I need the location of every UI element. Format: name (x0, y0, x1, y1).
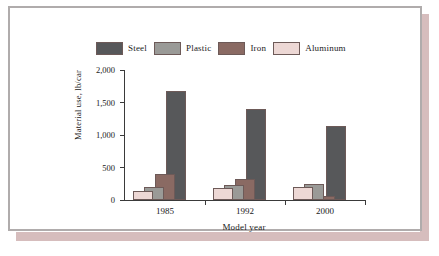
y-axis-tick-500: 500 (102, 163, 125, 173)
bar-1992-aluminum (213, 188, 233, 200)
figure-root: SteelPlasticIronAluminum Material use, l… (0, 0, 439, 256)
legend-swatch-iron (218, 42, 245, 55)
y-axis-tick-label: 500 (102, 163, 115, 173)
x-axis-label-1992: 1992 (215, 206, 275, 216)
x-axis-tick (285, 200, 286, 205)
bar-1985-aluminum (133, 191, 153, 200)
legend-label-steel: Steel (128, 43, 147, 53)
x-axis-tick (205, 200, 206, 205)
legend-swatch-steel (96, 42, 123, 55)
x-axis-label-2000: 2000 (295, 206, 355, 216)
bar-group-1992: 1992 (205, 70, 285, 200)
legend-entry-aluminum: Aluminum (273, 42, 346, 55)
legend-entry-steel: Steel (96, 42, 147, 55)
y-axis-tick-2000: 2,000 (96, 65, 125, 75)
figure-frame: SteelPlasticIronAluminum Material use, l… (8, 6, 422, 231)
legend-label-aluminum: Aluminum (305, 43, 346, 53)
legend-entry-plastic: Plastic (154, 42, 211, 55)
bar-2000-aluminum (293, 187, 313, 200)
bar-group-2000: 2000 (285, 70, 365, 200)
y-axis-tick-label: 0 (111, 195, 115, 205)
legend-label-plastic: Plastic (186, 43, 211, 53)
x-axis-label-1985: 1985 (135, 206, 195, 216)
legend-swatch-plastic (154, 42, 181, 55)
y-axis-tick-label: 1,000 (96, 130, 115, 140)
plot-area: 05001,0001,5002,000198519922000 (124, 70, 365, 201)
frame-shadow-bottom (16, 232, 429, 241)
y-axis-title: Material use, lb/car (73, 47, 83, 163)
legend-swatch-aluminum (273, 42, 300, 55)
y-axis-tick-1500: 1,500 (96, 98, 125, 108)
bar-group-1985: 1985 (125, 70, 205, 200)
y-axis-tick-0: 0 (111, 195, 125, 205)
y-axis-tick-label: 2,000 (96, 65, 115, 75)
y-axis-tick-1000: 1,000 (96, 130, 125, 140)
legend-label-iron: Iron (250, 43, 266, 53)
plot-wrapper: Material use, lb/car 05001,0001,5002,000… (78, 70, 378, 220)
chart-legend: SteelPlasticIronAluminum (96, 38, 386, 58)
x-axis-title: Model year (124, 222, 364, 232)
y-axis-tick-label: 1,500 (96, 98, 115, 108)
legend-entry-iron: Iron (218, 42, 266, 55)
x-axis-tick (365, 200, 366, 205)
bar-2000-steel (326, 126, 346, 200)
